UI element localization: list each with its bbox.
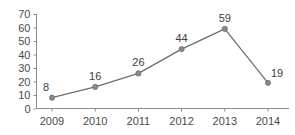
y-axis-tick-label: 20 bbox=[18, 76, 30, 88]
data-point-marker[interactable] bbox=[93, 84, 98, 89]
y-axis-tick-label: 50 bbox=[18, 35, 30, 47]
x-axis-tick-label: 2011 bbox=[127, 115, 151, 127]
data-point-label: 19 bbox=[271, 67, 283, 79]
x-axis-tick-label: 2010 bbox=[83, 115, 107, 127]
series-markers bbox=[49, 26, 270, 100]
data-point-label: 16 bbox=[89, 70, 101, 82]
x-axis-tick-label: 2012 bbox=[169, 115, 193, 127]
data-point-label: 44 bbox=[175, 32, 187, 44]
y-axis-tick-label: 30 bbox=[18, 62, 30, 74]
x-axis-tick-label: 2013 bbox=[213, 115, 237, 127]
data-point-marker[interactable] bbox=[265, 80, 270, 85]
data-point-label: 26 bbox=[132, 56, 144, 68]
y-axis-tick-label: 40 bbox=[18, 49, 30, 61]
data-point-marker[interactable] bbox=[136, 71, 141, 76]
y-axis-tick-label: 0 bbox=[24, 103, 30, 115]
data-point-marker[interactable] bbox=[179, 47, 184, 52]
y-axis-tick-label: 60 bbox=[18, 22, 30, 34]
y-axis-tick-labels: 010203040506070 bbox=[18, 8, 30, 115]
y-axis-tick-label: 70 bbox=[18, 8, 30, 20]
chart-canvas: 010203040506070 200920102011201220132014… bbox=[0, 0, 295, 135]
x-axis-tick-label: 2014 bbox=[256, 115, 280, 127]
data-point-label: 59 bbox=[219, 12, 231, 24]
series-point-labels: 81626445919 bbox=[43, 12, 283, 93]
data-point-label: 8 bbox=[43, 81, 49, 93]
y-axis-tick-label: 10 bbox=[18, 89, 30, 101]
data-point-marker[interactable] bbox=[49, 95, 54, 100]
line-chart: 010203040506070 200920102011201220132014… bbox=[0, 0, 295, 135]
data-point-marker[interactable] bbox=[222, 26, 227, 31]
x-axis-tick-label: 2009 bbox=[40, 115, 64, 127]
x-axis-tick-labels: 200920102011201220132014 bbox=[40, 115, 280, 127]
series-line bbox=[52, 29, 268, 98]
